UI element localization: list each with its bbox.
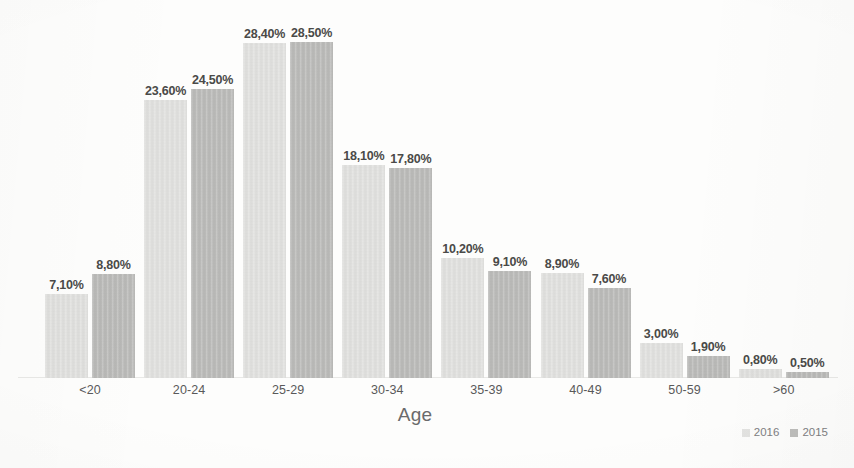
bar-value-label: 8,80% (96, 258, 130, 272)
bar-group: 10,20%9,10% (441, 0, 531, 378)
bar-2016-35-39[interactable]: 10,20% (441, 258, 484, 378)
bar-rect[interactable] (45, 294, 88, 378)
plot-area: 7,10%8,80%23,60%24,50%28,40%28,50%18,10%… (0, 0, 854, 378)
bar-2016-25-29[interactable]: 28,40% (243, 43, 286, 378)
bar-group: 8,90%7,60% (541, 0, 631, 378)
bar-value-label: 0,80% (743, 353, 777, 367)
bar-group: 18,10%17,80% (342, 0, 432, 378)
bar-rect[interactable] (640, 343, 683, 378)
bar-value-label: 9,10% (493, 255, 527, 269)
bar-value-label: 28,50% (291, 26, 332, 40)
bar-value-label: 28,40% (244, 27, 285, 41)
bar-value-label: 10,20% (442, 242, 483, 256)
bar-rect[interactable] (541, 273, 584, 378)
bar-value-label: 24,50% (192, 73, 233, 87)
bar-rect[interactable] (191, 89, 234, 378)
bar-rect[interactable] (144, 100, 187, 378)
bar-rect[interactable] (488, 271, 531, 378)
bar-group: 0,80%0,50% (739, 0, 829, 378)
bar-group: 7,10%8,80% (45, 0, 135, 378)
bar-rect[interactable] (389, 168, 432, 378)
bar-2016-<20[interactable]: 7,10% (45, 294, 88, 378)
bar-2015-50-59[interactable]: 1,90% (687, 356, 730, 378)
bar-value-label: 8,90% (545, 257, 579, 271)
bar-rect[interactable] (739, 369, 782, 378)
bar-group: 3,00%1,90% (640, 0, 730, 378)
bar-2015-25-29[interactable]: 28,50% (290, 42, 333, 378)
bar-2015->60[interactable]: 0,50% (786, 372, 829, 378)
bar-rect[interactable] (441, 258, 484, 378)
bar-2016->60[interactable]: 0,80% (739, 369, 782, 378)
chart-legend: 20162015 (742, 427, 828, 439)
bar-rect[interactable] (290, 42, 333, 378)
bar-rect[interactable] (588, 288, 631, 378)
category-label-25-29: 25-29 (272, 383, 304, 397)
category-label-35-39: 35-39 (470, 383, 502, 397)
legend-label: 2016 (754, 427, 780, 439)
bar-value-label: 0,50% (790, 356, 824, 370)
bar-rect[interactable] (687, 356, 730, 378)
category-label-30-34: 30-34 (371, 383, 403, 397)
bar-value-label: 23,60% (145, 84, 186, 98)
legend-swatch-icon (742, 429, 750, 437)
bar-value-label: 3,00% (644, 327, 678, 341)
bar-value-label: 7,60% (592, 272, 626, 286)
bar-rect[interactable] (92, 274, 135, 378)
bar-2016-20-24[interactable]: 23,60% (144, 100, 187, 378)
bar-rect[interactable] (243, 43, 286, 378)
bar-2015-30-34[interactable]: 17,80% (389, 168, 432, 378)
bar-2015-<20[interactable]: 8,80% (92, 274, 135, 378)
bar-rect[interactable] (342, 165, 385, 378)
bar-group: 28,40%28,50% (243, 0, 333, 378)
x-axis-title: Age (0, 404, 854, 426)
category-label-40-49: 40-49 (569, 383, 601, 397)
bar-value-label: 17,80% (390, 152, 431, 166)
bar-group: 23,60%24,50% (144, 0, 234, 378)
bar-value-label: 18,10% (343, 149, 384, 163)
legend-item-2016[interactable]: 2016 (742, 427, 780, 439)
bar-value-label: 1,90% (691, 340, 725, 354)
bar-2016-40-49[interactable]: 8,90% (541, 273, 584, 378)
legend-item-2015[interactable]: 2015 (790, 427, 828, 439)
category-label-50-59: 50-59 (668, 383, 700, 397)
bar-2016-50-59[interactable]: 3,00% (640, 343, 683, 378)
category-label-<20: <20 (79, 383, 101, 397)
legend-label: 2015 (802, 427, 828, 439)
category-label->60: >60 (773, 383, 795, 397)
bar-chart: 7,10%8,80%23,60%24,50%28,40%28,50%18,10%… (0, 0, 854, 468)
bar-2015-35-39[interactable]: 9,10% (488, 271, 531, 378)
category-label-20-24: 20-24 (173, 383, 205, 397)
bar-2015-20-24[interactable]: 24,50% (191, 89, 234, 378)
category-axis-labels: <2020-2425-2930-3435-3940-4950-59>60 (0, 383, 854, 405)
bar-2016-30-34[interactable]: 18,10% (342, 165, 385, 378)
legend-swatch-icon (790, 429, 798, 437)
x-axis-title-text: Age (398, 404, 432, 425)
bar-value-label: 7,10% (49, 278, 83, 292)
bar-2015-40-49[interactable]: 7,60% (588, 288, 631, 378)
bar-rect[interactable] (786, 372, 829, 378)
